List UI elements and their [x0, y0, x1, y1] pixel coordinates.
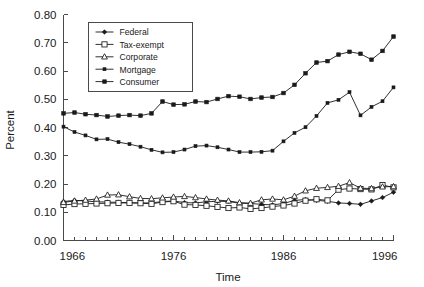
marker-square-filled [106, 115, 110, 119]
marker-square-small-filled [293, 131, 296, 134]
marker-square-small-filled [194, 145, 197, 148]
marker-square-open [292, 201, 297, 206]
marker-square-filled [95, 113, 99, 117]
legend-item-label: Federal [120, 27, 149, 37]
marker-square-open [215, 204, 220, 209]
y-tick-label: 0.80 [34, 9, 56, 21]
marker-square-open [182, 202, 187, 207]
marker-square-small-filled [381, 100, 384, 103]
marker-square-filled [315, 61, 319, 65]
marker-square-open [193, 202, 198, 207]
marker-square-filled [370, 58, 374, 62]
marker-square-open [149, 201, 154, 206]
marker-square-filled [172, 103, 176, 107]
marker-square-filled [183, 103, 187, 107]
x-tick-label: 1996 [372, 250, 398, 262]
marker-square-small-filled [95, 138, 98, 141]
x-tick-label: 1966 [60, 250, 86, 262]
marker-square-small-filled [139, 145, 142, 148]
marker-square-filled [337, 53, 341, 57]
y-tick-label: 0.50 [34, 93, 56, 105]
marker-square-small-filled [84, 134, 87, 137]
y-tick-label: 0.60 [34, 65, 56, 77]
marker-square-small-filled [73, 131, 76, 134]
marker-square-filled [117, 114, 121, 118]
marker-square-small-filled [62, 125, 65, 128]
marker-square-open [303, 198, 308, 203]
marker-square-filled [227, 94, 231, 98]
marker-square-small-filled [249, 151, 252, 154]
marker-square-small-filled [370, 105, 373, 108]
y-tick-label: 0.40 [34, 122, 56, 134]
x-axis-title: Time [215, 271, 240, 283]
marker-square-filled [128, 113, 132, 117]
marker-square-open [204, 203, 209, 208]
marker-square-small-filled [205, 144, 208, 147]
marker-square-filled [84, 112, 88, 116]
marker-square-small-filled [337, 98, 340, 101]
marker-square-open [105, 201, 110, 206]
x-tick-label: 1986 [271, 250, 297, 262]
marker-square-open [259, 205, 264, 210]
marker-square-open [325, 198, 330, 203]
y-tick-label: 0.10 [34, 206, 56, 218]
marker-square-small-filled [271, 149, 274, 152]
marker-square-filled [103, 80, 107, 84]
y-axis-title: Percent [4, 109, 16, 149]
marker-square-filled [293, 83, 297, 87]
y-tick-label: 0.20 [34, 178, 56, 190]
marker-square-open [314, 197, 319, 202]
marker-square-filled [392, 35, 396, 39]
marker-square-small-filled [392, 86, 395, 89]
marker-square-small-filled [238, 151, 241, 154]
marker-square-small-filled [128, 143, 131, 146]
x-tick-label: 1976 [161, 250, 187, 262]
marker-square-filled [238, 95, 242, 99]
marker-square-open [347, 186, 352, 191]
marker-square-open [116, 200, 121, 205]
y-tick-label: 0.00 [34, 235, 56, 247]
legend-item-label: Corporate [120, 52, 158, 62]
marker-square-small-filled [304, 126, 307, 129]
marker-square-small-filled [326, 101, 329, 104]
marker-square-open [102, 42, 107, 47]
line-chart: 0.000.100.200.300.400.500.600.700.80 196… [0, 0, 424, 287]
marker-square-small-filled [315, 114, 318, 117]
marker-square-filled [348, 50, 352, 54]
marker-square-filled [161, 100, 165, 104]
marker-square-small-filled [103, 68, 106, 71]
marker-square-filled [249, 97, 253, 101]
marker-square-filled [139, 114, 143, 118]
marker-square-open [127, 200, 132, 205]
marker-square-filled [282, 91, 286, 95]
marker-square-small-filled [260, 150, 263, 153]
marker-square-filled [194, 100, 198, 104]
marker-square-small-filled [150, 148, 153, 151]
marker-square-filled [216, 97, 220, 101]
marker-square-small-filled [183, 148, 186, 151]
marker-square-open [138, 201, 143, 206]
marker-square-small-filled [161, 151, 164, 154]
marker-square-open [226, 205, 231, 210]
marker-square-filled [62, 112, 66, 116]
marker-square-open [270, 204, 275, 209]
marker-square-open [237, 205, 242, 210]
y-tick-label: 0.70 [34, 37, 56, 49]
marker-square-filled [359, 52, 363, 56]
marker-square-small-filled [216, 146, 219, 149]
marker-square-filled [73, 111, 77, 115]
marker-square-filled [205, 100, 209, 104]
marker-square-small-filled [227, 148, 230, 151]
y-tick-label: 0.30 [34, 150, 56, 162]
marker-square-small-filled [106, 138, 109, 141]
marker-square-small-filled [359, 114, 362, 117]
marker-square-small-filled [117, 141, 120, 144]
marker-square-filled [381, 49, 385, 53]
chart-legend: FederalTax-exemptCorporateMortgageConsum… [89, 23, 193, 92]
marker-square-open [248, 206, 253, 211]
marker-square-small-filled [348, 91, 351, 94]
marker-square-filled [304, 71, 308, 75]
marker-square-open [94, 201, 99, 206]
legend-item-label: Consumer [120, 77, 160, 87]
y-tick-labels: 0.000.100.200.300.400.500.600.700.80 [34, 9, 56, 247]
